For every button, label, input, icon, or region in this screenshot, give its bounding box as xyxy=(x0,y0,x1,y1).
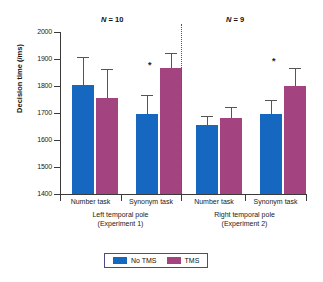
n-value-left: = 10 xyxy=(106,15,123,24)
legend-item-no-tms[interactable]: No TMS xyxy=(113,257,157,264)
x-label-exp1-synonym-task: Synonym task xyxy=(121,198,181,205)
y-tick-label-1700: 1700 xyxy=(22,109,52,116)
bar-exp2-number-no-tms[interactable] xyxy=(196,125,218,194)
x-label-exp1-number-task: Number task xyxy=(60,198,121,205)
group-label-experiment-1: Left temporal pole (Experiment 1) xyxy=(60,210,181,228)
x-axis-line xyxy=(60,194,306,195)
bar-exp1-number-tms[interactable] xyxy=(96,98,118,194)
panel-divider xyxy=(181,24,182,196)
group-label-exp1-line2: (Experiment 1) xyxy=(60,219,181,228)
errorbar-cap-exp2-synonym-no-tms xyxy=(265,100,277,101)
errorbar-cap-exp2-synonym-tms xyxy=(289,68,301,69)
bar-exp1-number-no-tms[interactable] xyxy=(72,85,94,194)
bar-exp2-synonym-tms[interactable] xyxy=(284,86,306,194)
y-tick-label-1600: 1600 xyxy=(22,136,52,143)
errorbar-cap-exp1-number-tms xyxy=(101,69,113,70)
group-label-exp2-line1: Right temporal pole xyxy=(183,210,306,219)
plot-area: * * xyxy=(60,32,305,194)
x-label-exp2-synonym-task: Synonym task xyxy=(245,198,306,205)
errorbar-cap-exp1-synonym-no-tms xyxy=(141,95,153,96)
errorbar-cap-exp2-number-tms xyxy=(225,107,237,108)
n-value-right: = 9 xyxy=(231,15,244,24)
y-tick-label-1800: 1800 xyxy=(22,82,52,89)
bar-exp2-synonym-no-tms[interactable] xyxy=(260,114,282,194)
errorbar-exp1-synonym-no-tms xyxy=(147,95,148,113)
y-tick-label-2000: 2000 xyxy=(22,28,52,35)
group-label-exp1-line1: Left temporal pole xyxy=(60,210,181,219)
bar-exp1-synonym-tms[interactable] xyxy=(160,68,182,194)
errorbar-exp2-synonym-tms xyxy=(295,68,296,86)
legend-label-tms: TMS xyxy=(185,257,200,264)
errorbar-exp2-number-no-tms xyxy=(207,116,208,125)
errorbar-cap-exp2-number-no-tms xyxy=(201,116,213,117)
bar-exp1-synonym-no-tms[interactable] xyxy=(136,114,158,194)
chart-legend: No TMS TMS xyxy=(104,253,208,268)
y-tick-label-1400: 1400 xyxy=(22,190,52,197)
y-tick-label-1900: 1900 xyxy=(22,55,52,62)
errorbar-exp1-number-no-tms xyxy=(83,57,84,85)
group-label-exp2-line2: (Experiment 2) xyxy=(183,219,306,228)
errorbar-cap-exp1-synonym-tms xyxy=(165,53,177,54)
legend-swatch-tms-icon xyxy=(167,257,181,264)
errorbar-exp2-number-tms xyxy=(231,107,232,118)
errorbar-cap-exp1-number-no-tms xyxy=(77,57,89,58)
bar-exp2-number-tms[interactable] xyxy=(220,118,242,194)
n-label-experiment-1: N = 10 xyxy=(101,15,123,24)
bar-chart-figure: Decision time (/ms) 2000 1900 1800 1700 … xyxy=(0,0,323,282)
x-label-exp2-number-task: Number task xyxy=(183,198,245,205)
errorbar-exp2-synonym-no-tms xyxy=(271,100,272,115)
errorbar-exp1-synonym-tms xyxy=(171,53,172,68)
legend-label-no-tms: No TMS xyxy=(131,257,157,264)
y-tick-label-1500: 1500 xyxy=(22,163,52,170)
errorbar-exp1-number-tms xyxy=(107,69,108,98)
significance-star-exp1-synonym: * xyxy=(148,62,152,68)
n-label-experiment-2: N = 9 xyxy=(226,15,244,24)
group-label-experiment-2: Right temporal pole (Experiment 2) xyxy=(183,210,306,228)
legend-swatch-no-tms-icon xyxy=(113,257,127,264)
legend-item-tms[interactable]: TMS xyxy=(167,257,200,264)
significance-star-exp2-synonym: * xyxy=(272,58,276,64)
